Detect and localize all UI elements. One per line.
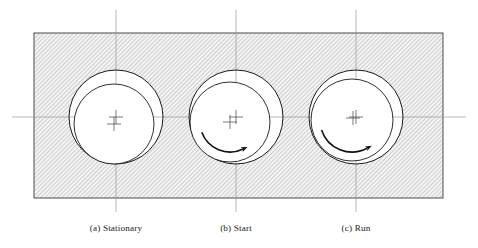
panel-c xyxy=(309,70,403,164)
panel-a xyxy=(69,70,163,164)
journal-circle-c xyxy=(311,79,393,161)
caption-c: (c) Run xyxy=(342,223,371,233)
panels-layer xyxy=(69,70,403,164)
panel-b xyxy=(189,70,283,164)
caption-a: (a) Stationary xyxy=(90,223,143,233)
captions-layer: (a) Stationary (b) Start (c) Run xyxy=(90,223,371,233)
figure-canvas: (a) Stationary (b) Start (c) Run xyxy=(0,0,478,248)
caption-b: (b) Start xyxy=(220,223,252,233)
journal-bearing-figure: (a) Stationary (b) Start (c) Run xyxy=(0,0,478,248)
